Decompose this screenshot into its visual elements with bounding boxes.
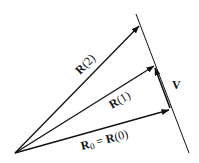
vector-v-arrow	[155, 68, 170, 108]
label-r2: R(2)	[72, 51, 98, 77]
line-of-motion	[136, 14, 189, 153]
vector-diagram: R(2) R(1) R0 = R(0) V	[0, 0, 199, 163]
label-r1: R(1)	[106, 88, 133, 112]
label-v: V	[172, 78, 181, 92]
label-r0: R0 = R(0)	[79, 127, 130, 154]
